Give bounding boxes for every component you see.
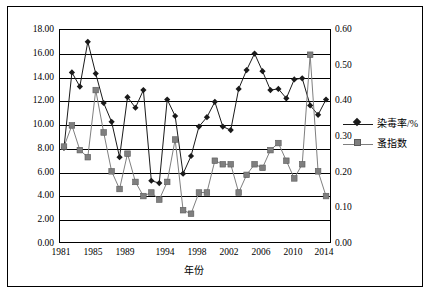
plot-area: [59, 29, 331, 243]
data-point: [180, 171, 186, 177]
x-tick-label: 1989: [110, 247, 140, 257]
y2-tick-label: 0.20: [335, 167, 375, 177]
y-tick-label: 4.00: [10, 190, 54, 200]
data-point: [77, 83, 83, 89]
legend-label: 染毒率/%: [377, 117, 418, 131]
data-point: [172, 113, 178, 119]
chart-frame: 18.00 16.00 14.00 12.00 10.00 8.00 6.00 …: [7, 6, 423, 287]
data-point: [149, 190, 155, 196]
data-point: [140, 87, 146, 93]
data-point: [116, 154, 122, 160]
y2-tick-label: 0.50: [335, 60, 375, 70]
x-tick-label: 2014: [309, 247, 339, 257]
data-point: [268, 147, 274, 153]
data-point: [188, 153, 194, 159]
x-axis-title: 年份: [154, 262, 234, 277]
data-point: [276, 140, 282, 146]
data-point: [101, 130, 107, 136]
data-point: [323, 96, 329, 102]
data-point: [196, 190, 202, 196]
x-tick-label: 1998: [182, 247, 212, 257]
y-tick-label: 16.00: [10, 48, 54, 58]
y-tick-label: 8.00: [10, 143, 54, 153]
y2-tick-label: 0.10: [335, 202, 375, 212]
data-point: [315, 169, 321, 175]
data-point: [291, 76, 297, 82]
diamond-marker-icon: [354, 119, 360, 125]
y2-tick-label: 0.40: [335, 95, 375, 105]
data-point: [260, 165, 266, 171]
data-point: [141, 193, 147, 199]
data-point: [125, 151, 131, 157]
y-tick-label: 2.00: [10, 214, 54, 224]
data-point: [299, 161, 305, 167]
data-point: [251, 50, 257, 56]
data-point: [77, 147, 83, 153]
data-point: [204, 190, 210, 196]
legend-item-1: 蚤指数: [343, 135, 427, 155]
data-point: [307, 52, 313, 58]
y2-tick-label: 0.00: [335, 238, 375, 248]
chart-legend: 染毒率/% 蚤指数: [343, 115, 427, 155]
x-tick-label: 1985: [78, 247, 108, 257]
y-tick-label: 6.00: [10, 167, 54, 177]
data-point: [93, 87, 99, 93]
data-point: [228, 127, 234, 133]
data-point: [220, 123, 226, 129]
y-tick-label: 18.00: [10, 24, 54, 34]
legend-item-0: 染毒率/%: [343, 115, 427, 135]
data-point: [236, 190, 242, 196]
data-point: [267, 87, 273, 93]
data-point: [109, 119, 115, 125]
data-point: [220, 161, 226, 167]
data-point: [164, 96, 170, 102]
x-tick-label: 2010: [278, 247, 308, 257]
x-tick-label: 1981: [46, 247, 76, 257]
x-tick-label: 1994: [150, 247, 180, 257]
data-point: [148, 178, 154, 184]
data-point: [164, 179, 170, 185]
data-point: [109, 169, 115, 175]
data-point: [299, 75, 305, 81]
data-point: [156, 180, 162, 186]
x-tick-label: 2002: [214, 247, 244, 257]
data-point: [85, 39, 91, 45]
y-tick-label: 12.00: [10, 95, 54, 105]
data-point: [117, 186, 123, 192]
y-tick-label: 10.00: [10, 119, 54, 129]
square-marker-icon: [354, 139, 361, 146]
data-point: [172, 137, 178, 143]
data-point: [156, 197, 162, 203]
x-tick-label: 2006: [246, 247, 276, 257]
data-point: [212, 99, 218, 105]
data-point: [133, 179, 139, 185]
data-point: [188, 211, 194, 217]
data-point: [244, 67, 250, 73]
data-point: [93, 70, 99, 76]
chart-container: 18.00 16.00 14.00 12.00 10.00 8.00 6.00 …: [0, 0, 431, 294]
data-series-layer: [60, 30, 330, 242]
data-point: [259, 68, 265, 74]
data-point: [85, 154, 91, 160]
data-point: [252, 161, 258, 167]
data-point: [228, 161, 234, 167]
data-point: [291, 176, 297, 182]
y2-tick-label: 0.60: [335, 24, 375, 34]
y-tick-label: 14.00: [10, 72, 54, 82]
data-point: [323, 193, 329, 199]
data-point: [244, 172, 250, 178]
data-point: [69, 123, 75, 129]
data-point: [61, 144, 67, 150]
data-point: [212, 158, 218, 164]
data-point: [284, 158, 290, 164]
data-point: [69, 69, 75, 75]
data-point: [236, 86, 242, 92]
legend-label: 蚤指数: [377, 137, 407, 151]
data-point: [101, 100, 107, 106]
data-point: [180, 207, 186, 213]
